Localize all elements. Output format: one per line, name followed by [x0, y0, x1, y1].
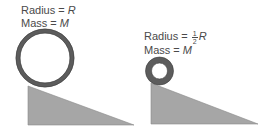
left-radius-var: R [68, 4, 76, 16]
right-mass-text: Mass = [144, 44, 183, 56]
right-ramp [151, 83, 258, 124]
left-mass-text: Mass = [21, 17, 60, 29]
right-radius-text: Radius = [144, 30, 191, 42]
right-radius-var: R [199, 30, 207, 42]
left-mass-label: Mass = M [21, 17, 69, 30]
left-ramp [28, 86, 134, 125]
right-mass-var: M [183, 44, 192, 56]
left-hoop [18, 31, 72, 85]
left-mass-var: M [60, 17, 69, 29]
left-radius-text: Radius = [21, 4, 68, 16]
half-fraction: 12 [192, 30, 198, 45]
right-radius-label: Radius = 12R [144, 30, 207, 45]
left-radius-label: Radius = R [21, 4, 76, 17]
right-mass-label: Mass = M [144, 44, 192, 57]
